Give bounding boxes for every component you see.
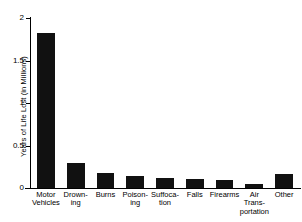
bar [156, 178, 174, 188]
bar [186, 179, 204, 188]
category-label: Burns [89, 191, 123, 199]
y-tick-label: 1.5 [0, 57, 24, 65]
bar [126, 176, 144, 188]
plot-area [31, 18, 299, 188]
bar [245, 184, 263, 188]
bar [216, 180, 234, 189]
category-label: Suffoca- tion [148, 191, 182, 208]
category-label: Drown- ing [59, 191, 93, 208]
y-tick-mark [26, 188, 31, 189]
x-axis-line [25, 188, 301, 189]
bar [275, 174, 293, 188]
category-label: Other [267, 191, 301, 199]
category-label: Air Trans- portation [237, 191, 271, 216]
category-label: Firearms [208, 191, 242, 199]
bar-chart: Years of Life Lost (in Millions) 00.511.… [0, 0, 302, 222]
category-label: Motor Vehicles [29, 191, 63, 208]
y-tick-label: 0.5 [0, 142, 24, 150]
bar [97, 173, 115, 188]
y-tick-label: 2 [0, 14, 24, 22]
bar [67, 163, 85, 189]
bar [37, 33, 55, 188]
y-tick-label: 0 [0, 184, 24, 192]
y-tick-label: 1 [0, 99, 24, 107]
category-label: Poison- ing [118, 191, 152, 208]
category-label: Falls [178, 191, 212, 199]
